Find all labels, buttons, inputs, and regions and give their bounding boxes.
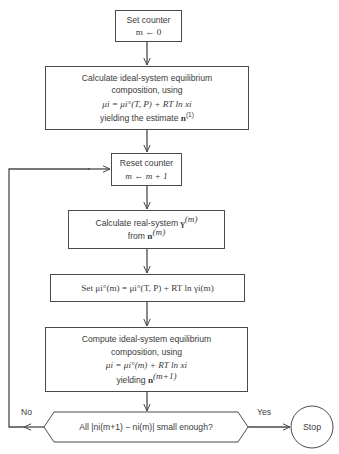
real-system-line1: Calculate real-system γ(m) [95, 217, 197, 230]
ideal-initial-line1: Calculate ideal-system equilibrium [82, 72, 212, 85]
decision-text: All |ni(m+1) − ni(m)| small enough? [44, 412, 248, 442]
real-system-box: Calculate real-system γ(m) from n(m) [68, 210, 225, 249]
yes-label: Yes [257, 407, 271, 417]
set-counter-formula: m ← 0 [136, 26, 162, 39]
ideal-iter-line4: yielding n(m+1) [116, 374, 176, 387]
ideal-iter-line1: Compute ideal-system equilibrium [82, 333, 211, 346]
ideal-iter-superscript: (m+1) [153, 371, 177, 381]
ideal-initial-line4: yielding the estimate n(1) [100, 112, 194, 125]
real-system-text: Calculate real-system [95, 218, 180, 228]
set-counter-box: Set counter m ← 0 [115, 10, 182, 42]
set-mu-box: Set μi°(m) = μi°(T, P) + RT ln γi(m) [50, 274, 245, 302]
ideal-iter-yield-text: yielding [116, 375, 148, 385]
ideal-initial-equation: μi = μi°(T, P) + RT ln xi [102, 98, 191, 111]
ideal-iter-line2: composition, using [111, 346, 182, 359]
reset-counter-label: Reset counter [120, 157, 174, 170]
gamma-superscript: (m) [185, 214, 198, 224]
set-mu-text: Set μi°(m) = μi°(T, P) + RT ln γi(m) [81, 282, 214, 295]
ideal-initial-box: Calculate ideal-system equilibrium compo… [45, 66, 249, 130]
stop-text: Stop [291, 406, 333, 448]
reset-counter-formula: m ← m + 1 [125, 170, 167, 183]
ideal-initial-line2: composition, using [111, 84, 182, 97]
ideal-iter-box: Compute ideal-system equilibrium composi… [45, 327, 248, 392]
ideal-initial-yield-text: yielding the estimate [100, 113, 181, 123]
ideal-initial-superscript: (1) [186, 111, 194, 118]
reset-counter-box: Reset counter m ← m + 1 [111, 153, 182, 186]
real-system-line2: from n(m) [128, 230, 165, 243]
no-label: No [21, 407, 32, 417]
n-superscript: (m) [152, 227, 165, 237]
from-text: from [128, 231, 148, 241]
set-counter-label: Set counter [127, 14, 171, 27]
